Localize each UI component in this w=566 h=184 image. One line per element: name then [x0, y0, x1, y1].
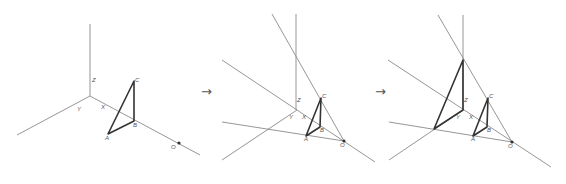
point-o	[177, 141, 180, 144]
projection-line-c	[438, 15, 512, 142]
panel-step-2: Z Y X C B A O	[222, 14, 375, 162]
diagram-canvas: Z Y X C B A O → Z Y X C B A O → Z Y	[0, 0, 566, 184]
label-x: X	[100, 104, 106, 110]
panel-step-3: Z Y X C B A O	[388, 15, 551, 167]
arrow-2: →	[375, 84, 386, 99]
label-o: O	[508, 143, 513, 149]
projection-line-a	[222, 122, 344, 141]
label-o: O	[340, 142, 345, 148]
label-a: A	[303, 136, 308, 142]
x-axis-extended	[222, 60, 375, 162]
x-axis	[90, 96, 200, 155]
label-x: X	[468, 114, 474, 120]
projection-line-c	[272, 14, 344, 141]
label-b: B	[487, 127, 491, 133]
label-y: Y	[289, 114, 294, 120]
label-b: B	[133, 122, 137, 128]
panel-step-1: Z Y X C B A O	[17, 24, 200, 155]
label-x: X	[301, 114, 307, 120]
label-y: Y	[77, 106, 82, 112]
label-z: Z	[91, 77, 96, 83]
y-axis	[17, 96, 90, 135]
label-z: Z	[296, 97, 301, 103]
projection-line-a	[389, 122, 512, 142]
label-o: O	[171, 144, 176, 150]
label-b: B	[320, 127, 324, 133]
label-z: Z	[463, 97, 468, 103]
label-a: A	[104, 135, 109, 141]
y-axis	[222, 110, 297, 160]
label-a: A	[470, 136, 475, 142]
arrow-1: →	[201, 84, 212, 99]
label-y: Y	[456, 114, 461, 120]
label-c: C	[489, 93, 494, 99]
label-c: C	[135, 77, 140, 83]
label-c: C	[322, 93, 327, 99]
